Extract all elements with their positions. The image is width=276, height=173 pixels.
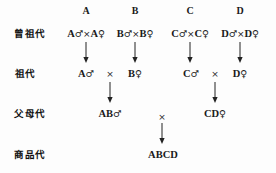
column-header-d: D — [236, 6, 243, 16]
node-letter: B — [128, 68, 135, 79]
cross-pair-b: B♂×B♀ — [117, 29, 154, 40]
parent-male-letter: B — [117, 28, 124, 39]
male-symbol-icon: ♂ — [191, 68, 200, 79]
cross-operator: × — [211, 69, 219, 79]
parent-node-ab: AB♂ — [98, 109, 121, 120]
female-symbol-icon: ♀ — [240, 68, 247, 79]
column-header-a: A — [82, 6, 89, 16]
male-symbol-icon: ♂ — [86, 68, 95, 79]
male-symbol-icon: ♂ — [113, 108, 122, 119]
down-arrow-icon — [187, 42, 194, 64]
cross-operator: × — [106, 69, 114, 79]
down-arrow-icon — [212, 82, 219, 104]
generation-label-grandparent: 祖代 — [15, 69, 36, 79]
generation-label-great-grandparent: 曾祖代 — [14, 29, 45, 39]
grandparent-node-a: A♂ — [78, 69, 94, 80]
male-symbol-icon: ♂ — [75, 28, 83, 39]
parent-female-letter: D — [245, 28, 252, 39]
down-arrow-icon — [107, 82, 114, 104]
column-header-c: C — [186, 6, 193, 16]
column-header-b: B — [132, 6, 139, 16]
parent-node-cd: CD♀ — [204, 109, 226, 120]
down-arrow-icon — [237, 42, 244, 64]
male-symbol-icon: ♂ — [179, 28, 187, 39]
grandparent-node-b: B♀ — [128, 69, 142, 80]
cross-operator: × — [132, 29, 139, 39]
down-arrow-icon — [159, 123, 166, 145]
generation-label-parent: 父母代 — [14, 109, 45, 119]
parent-female-letter: A — [91, 28, 98, 39]
node-letter: AB — [98, 108, 113, 119]
generation-label-commercial: 商品代 — [14, 150, 45, 160]
female-symbol-icon: ♀ — [219, 108, 226, 119]
female-symbol-icon: ♀ — [252, 28, 259, 39]
down-arrow-icon — [83, 42, 90, 64]
node-letter: CD — [204, 108, 219, 119]
down-arrow-icon — [132, 42, 139, 64]
female-symbol-icon: ♀ — [98, 28, 105, 39]
grandparent-node-c: C♂ — [183, 69, 199, 80]
node-letter: A — [78, 68, 86, 79]
female-symbol-icon: ♀ — [135, 68, 142, 79]
cross-pair-a: A♂×A♀ — [67, 29, 105, 40]
node-letter: ABCD — [148, 149, 178, 160]
grandparent-node-d: D♀ — [233, 69, 248, 80]
cross-operator: × — [158, 112, 166, 122]
breeding-scheme-diagram: 曾祖代 祖代 父母代 商品代 A B C D A♂×A♀ B♂×B♀ C♂×C♀… — [0, 0, 276, 173]
node-letter: D — [233, 68, 241, 79]
cross-pair-c: C♂×C♀ — [171, 29, 209, 40]
parent-female-letter: C — [195, 28, 202, 39]
cross-pair-d: D♂×D♀ — [221, 29, 259, 40]
parent-female-letter: B — [140, 28, 147, 39]
male-symbol-icon: ♂ — [229, 28, 237, 39]
commercial-node-abcd: ABCD — [148, 150, 178, 161]
node-letter: C — [183, 68, 191, 79]
female-symbol-icon: ♀ — [202, 28, 209, 39]
female-symbol-icon: ♀ — [146, 28, 153, 39]
